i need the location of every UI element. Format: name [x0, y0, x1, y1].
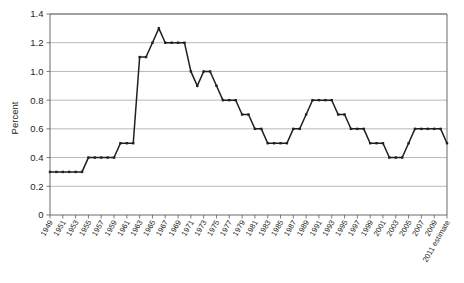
data-point-marker [331, 99, 333, 101]
data-point-marker [439, 128, 441, 130]
data-point-marker [254, 128, 256, 130]
data-point-marker [132, 142, 134, 144]
data-point-marker [177, 42, 179, 44]
data-point-marker [318, 99, 320, 101]
data-point-marker [222, 99, 224, 101]
data-point-marker [145, 56, 147, 58]
chart-container: 00.20.40.60.81.01.21.4 19491951195319551… [0, 0, 464, 283]
data-point-marker [74, 171, 76, 173]
data-point-marker [247, 113, 249, 115]
data-point-marker [170, 42, 172, 44]
data-point-marker [55, 171, 57, 173]
line-chart: 00.20.40.60.81.01.21.4 19491951195319551… [0, 0, 464, 283]
data-point-marker [356, 128, 358, 130]
data-point-marker [407, 142, 409, 144]
data-point-marker [369, 142, 371, 144]
y-tick-label: 0.6 [30, 123, 43, 134]
y-tick-label: 0 [38, 209, 43, 220]
data-point-marker [126, 142, 128, 144]
data-point-marker [375, 142, 377, 144]
data-point-marker [81, 171, 83, 173]
data-point-marker [299, 128, 301, 130]
data-point-marker [196, 85, 198, 87]
data-point-marker [215, 85, 217, 87]
data-point-marker [158, 27, 160, 29]
data-point-marker [209, 70, 211, 72]
data-point-marker [286, 142, 288, 144]
data-point-marker [279, 142, 281, 144]
x-tick-labels: 1949195119531955195719591961196319651967… [39, 219, 452, 264]
data-point-marker [267, 142, 269, 144]
y-tick-label: 1.4 [30, 8, 43, 19]
data-point-marker [260, 128, 262, 130]
data-point-marker [395, 156, 397, 158]
data-point-marker [427, 128, 429, 130]
data-point-marker [401, 156, 403, 158]
data-point-marker [363, 128, 365, 130]
data-point-marker [305, 113, 307, 115]
data-point-marker [106, 156, 108, 158]
data-point-marker [234, 99, 236, 101]
data-point-marker [138, 56, 140, 58]
x-tick-marks [50, 215, 447, 219]
y-tick-label: 0.4 [30, 152, 43, 163]
y-tick-label: 0.8 [30, 95, 43, 106]
y-tick-marks [47, 14, 51, 215]
y-tick-labels: 00.20.40.60.81.01.21.4 [30, 8, 43, 220]
data-point-marker [49, 171, 51, 173]
data-point-marker [382, 142, 384, 144]
data-point-marker [164, 42, 166, 44]
y-axis-title: Percent [9, 101, 20, 134]
data-point-marker [337, 113, 339, 115]
data-point-marker [228, 99, 230, 101]
y-tick-label: 1.2 [30, 37, 43, 48]
data-point-marker [87, 156, 89, 158]
data-point-marker [350, 128, 352, 130]
data-point-marker [62, 171, 64, 173]
data-point-marker [68, 171, 70, 173]
data-point-marker [433, 128, 435, 130]
data-point-marker [119, 142, 121, 144]
data-point-marker [420, 128, 422, 130]
y-tick-label: 1.0 [30, 66, 43, 77]
data-point-marker [190, 70, 192, 72]
data-point-marker [324, 99, 326, 101]
data-point-marker [292, 128, 294, 130]
data-point-marker [183, 42, 185, 44]
gridlines [50, 14, 447, 186]
data-point-marker [241, 113, 243, 115]
data-point-marker [311, 99, 313, 101]
data-point-marker [446, 142, 448, 144]
data-point-marker [100, 156, 102, 158]
data-point-marker [151, 42, 153, 44]
data-point-marker [414, 128, 416, 130]
data-point-marker [273, 142, 275, 144]
y-tick-label: 0.2 [30, 181, 43, 192]
data-point-marker [388, 156, 390, 158]
data-point-marker [343, 113, 345, 115]
data-point-marker [94, 156, 96, 158]
data-point-marker [113, 156, 115, 158]
data-point-marker [202, 70, 204, 72]
